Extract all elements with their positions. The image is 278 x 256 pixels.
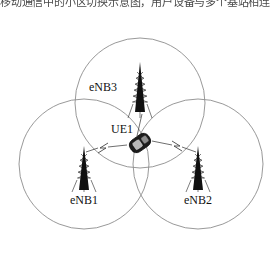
lightning-bolt-icon-enb1 <box>98 143 108 153</box>
cellular-handover-diagram: eNB3 eNB1 <box>0 0 278 256</box>
tower-label-enb1: eNB1 <box>70 193 98 207</box>
tower-enb1: eNB1 <box>70 146 98 207</box>
tower-enb3-legs <box>128 104 152 118</box>
tower-enb1-legs <box>72 180 96 192</box>
lightning-bolt-icon-enb2 <box>172 141 182 151</box>
link-ue1-enb1-left-segment <box>108 145 127 147</box>
ue-label-ue1: UE1 <box>111 122 133 136</box>
tower-enb3: eNB3 <box>89 62 152 118</box>
tower-label-enb3: eNB3 <box>89 80 117 94</box>
link-ue1-enb2-left-segment <box>152 141 172 145</box>
tower-enb2-legs <box>186 180 210 192</box>
tower-enb2: eNB2 <box>184 146 212 207</box>
figure-root: 移动通信中的小区切换示意图，用户设备与多个基站相连 <box>0 0 278 256</box>
tower-label-enb2: eNB2 <box>184 193 212 207</box>
